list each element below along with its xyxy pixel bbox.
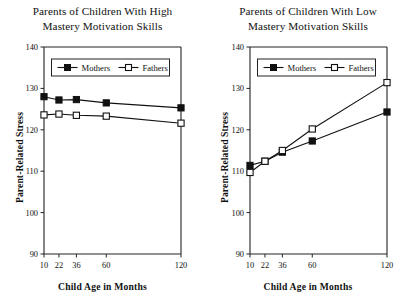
legend-sample-marker — [332, 65, 338, 71]
y-tick-label: 90 — [236, 250, 244, 259]
y-tick-label: 110 — [26, 167, 38, 176]
y-tick-label: 130 — [231, 84, 244, 93]
data-point-mothers — [309, 138, 315, 144]
y-tick-label: 130 — [25, 84, 38, 93]
x-tick-label: 60 — [102, 261, 110, 270]
x-tick-label: 36 — [278, 261, 286, 270]
data-point-fathers — [384, 80, 390, 86]
panel-high-mastery: Parents of Children With High Mastery Mo… — [0, 0, 205, 298]
data-point-fathers — [262, 158, 268, 164]
y-tick-label: 100 — [231, 209, 244, 218]
plot-area-high-mastery: 9010011012013014010223660120MothersFathe… — [0, 0, 205, 298]
data-point-fathers — [247, 169, 253, 175]
x-axis-label-low-mastery: Child Age in Months — [205, 281, 411, 292]
series-line-fathers — [44, 114, 181, 123]
x-axis-label-high-mastery: Child Age in Months — [0, 281, 205, 292]
x-tick-label: 10 — [246, 261, 254, 270]
data-point-fathers — [73, 112, 79, 118]
x-tick-label: 10 — [40, 261, 48, 270]
series-line-fathers — [250, 83, 387, 173]
legend-label-fathers: Fathers — [143, 63, 169, 73]
legend-sample-marker — [126, 65, 132, 71]
x-tick-label: 60 — [308, 261, 316, 270]
x-tick-label: 120 — [381, 261, 394, 270]
panel-low-mastery: Parents of Children With Low Mastery Mot… — [205, 0, 411, 298]
legend-label-mothers: Mothers — [82, 63, 111, 73]
data-point-mothers — [56, 97, 62, 103]
y-tick-label: 120 — [231, 126, 244, 135]
y-tick-label: 100 — [25, 209, 38, 218]
data-point-mothers — [384, 109, 390, 115]
x-tick-label: 22 — [261, 261, 269, 270]
y-tick-label: 140 — [231, 43, 244, 52]
x-tick-label: 22 — [55, 261, 63, 270]
data-point-fathers — [279, 147, 285, 153]
data-point-mothers — [41, 94, 47, 100]
legend-sample-marker — [65, 65, 71, 71]
plot-area-low-mastery: 9010011012013014010223660120MothersFathe… — [205, 0, 411, 298]
data-point-fathers — [309, 126, 315, 132]
y-tick-label: 140 — [25, 43, 38, 52]
data-point-mothers — [178, 105, 184, 111]
data-point-mothers — [73, 96, 79, 102]
data-point-fathers — [178, 120, 184, 126]
y-axis-label-high-mastery: Parent-Related Stress — [14, 111, 25, 202]
figure-two-panel-line-charts: Parents of Children With High Mastery Mo… — [0, 0, 411, 298]
y-tick-label: 110 — [232, 167, 244, 176]
legend-label-mothers: Mothers — [288, 63, 317, 73]
data-point-mothers — [103, 100, 109, 106]
x-tick-label: 36 — [72, 261, 80, 270]
y-axis-label-low-mastery: Parent-Related Stress — [219, 111, 230, 202]
data-point-mothers — [247, 162, 253, 168]
data-point-fathers — [103, 113, 109, 119]
data-point-fathers — [56, 111, 62, 117]
y-tick-label: 120 — [25, 126, 38, 135]
series-line-mothers — [44, 97, 181, 108]
y-tick-label: 90 — [30, 250, 38, 259]
data-point-fathers — [41, 112, 47, 118]
legend-label-fathers: Fathers — [349, 63, 375, 73]
legend-sample-marker — [271, 65, 277, 71]
x-tick-label: 120 — [175, 261, 188, 270]
